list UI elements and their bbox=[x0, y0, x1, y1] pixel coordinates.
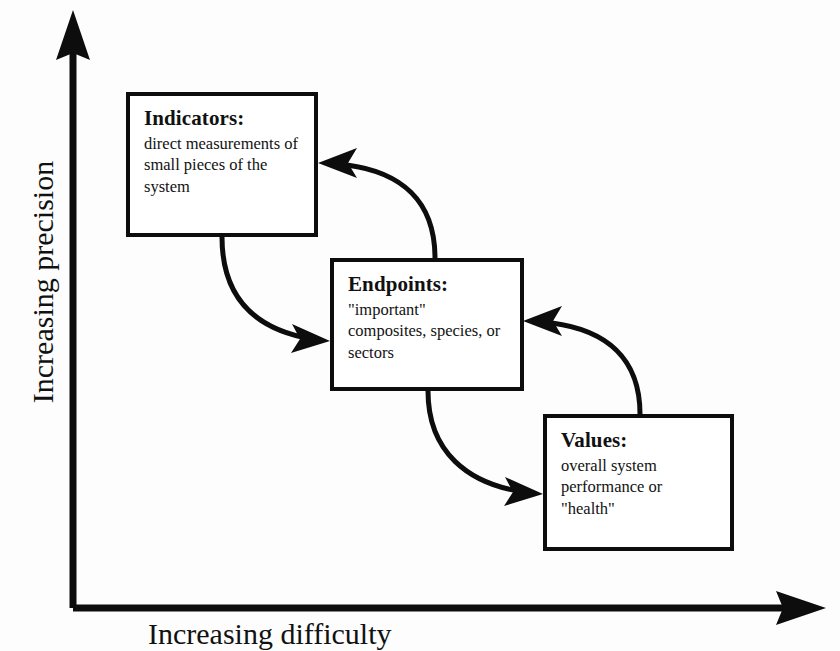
x-axis-arrowhead-icon bbox=[776, 591, 826, 625]
connector-endpoints-to-values-curve bbox=[428, 391, 524, 492]
y-axis bbox=[56, 10, 90, 608]
connector-endpoints-to-indicators bbox=[318, 148, 435, 258]
connector-indicators-to-endpoints-arrowhead-icon bbox=[291, 324, 330, 353]
connector-values-to-endpoints bbox=[523, 306, 640, 414]
connector-indicators-to-endpoints bbox=[222, 237, 330, 353]
concept-box-endpoints-body: "important" composites, species, or sect… bbox=[348, 299, 508, 363]
connector-values-to-endpoints-curve bbox=[552, 323, 640, 414]
connector-endpoints-to-indicators-arrowhead-icon bbox=[318, 148, 357, 178]
concept-box-indicators: Indicators: direct measurements of small… bbox=[126, 92, 318, 237]
concept-box-indicators-body: direct measurements of small pieces of t… bbox=[144, 133, 302, 197]
connector-values-to-endpoints-arrowhead-icon bbox=[523, 306, 562, 336]
connector-endpoints-to-indicators-curve bbox=[347, 165, 435, 258]
concept-box-values-title: Values: bbox=[561, 428, 718, 453]
connector-endpoints-to-values bbox=[428, 391, 543, 506]
concept-box-values: Values: overall system performance or "h… bbox=[543, 414, 734, 551]
connector-indicators-to-endpoints-curve bbox=[222, 237, 312, 339]
concept-box-endpoints: Endpoints: "important" composites, speci… bbox=[330, 258, 524, 391]
concept-box-endpoints-title: Endpoints: bbox=[348, 272, 508, 297]
y-axis-label: Increasing precision bbox=[26, 117, 60, 447]
concept-box-indicators-title: Indicators: bbox=[144, 106, 302, 131]
concept-box-values-body: overall system performance or "health" bbox=[561, 455, 718, 519]
x-axis-label: Increasing difficulty bbox=[148, 617, 392, 651]
y-axis-arrowhead-icon bbox=[56, 10, 90, 60]
